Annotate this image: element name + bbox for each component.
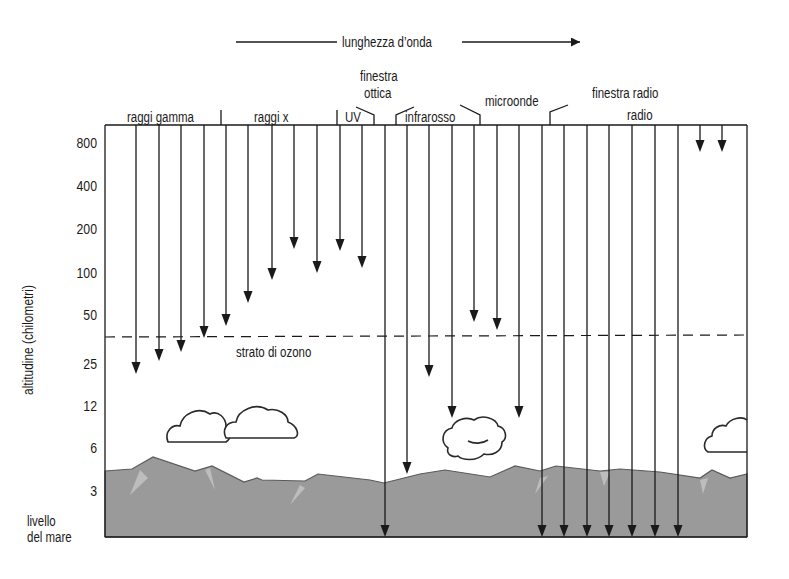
band-label-gamma: raggi gamma: [127, 110, 194, 124]
band-label-infrared: infrarosso: [405, 110, 455, 124]
arrowhead-icon: [493, 318, 502, 330]
atmospheric-window-diagram: lunghezza d’onda raggi gamma raggi x UV …: [0, 0, 789, 579]
band-label-optical-window-line1: finestra: [360, 69, 398, 83]
y-tick-label: 200: [64, 221, 97, 236]
cloud-left: [167, 411, 231, 442]
arrowhead-icon: [244, 291, 253, 303]
arrowhead-icon: [177, 340, 186, 352]
arrowhead-icon: [515, 406, 524, 418]
arrowhead-icon: [696, 140, 705, 152]
y-tick-label: 6: [64, 440, 97, 455]
y-tick-label: 25: [64, 356, 97, 371]
arrowhead-icon: [313, 261, 322, 273]
band-label-microwave: microonde: [485, 94, 539, 108]
y-tick-label: 400: [64, 178, 97, 193]
y-tick-label: 800: [64, 135, 97, 150]
arrowhead-icon: [132, 362, 141, 374]
arrowhead-icon: [268, 268, 277, 280]
arrowhead-icon: [425, 365, 434, 377]
sea-level-label-line1: livello: [27, 514, 56, 528]
y-tick-label: 100: [64, 265, 97, 280]
y-tick-label: 12: [64, 398, 97, 413]
band-label-xray: raggi x: [254, 110, 288, 124]
band-label-radio-window: finestra radio: [592, 86, 658, 100]
band-label-uv: UV: [345, 110, 361, 124]
arrowhead-icon: [222, 314, 231, 326]
ozone-label: strato di ozono: [236, 345, 311, 359]
arrowhead-icon: [358, 256, 367, 268]
arrowhead-icon: [448, 406, 457, 418]
ozone-line: [105, 335, 747, 337]
band-label-optical-window-line2: ottica: [364, 86, 391, 100]
arrowhead-icon: [155, 349, 164, 361]
arrowhead-icon: [470, 310, 479, 322]
arrowhead-icon: [718, 140, 727, 152]
band-label-radio: radio: [627, 108, 653, 122]
arrowhead-icon: [290, 237, 299, 249]
wavelength-label: lunghezza d’onda: [342, 35, 432, 49]
y-axis-title: altitudine (chilometri): [20, 285, 36, 395]
arrowhead-icon: [336, 239, 345, 251]
y-tick-label: 50: [64, 307, 97, 322]
y-tick-label: 3: [64, 483, 97, 498]
arrowhead-icon: [403, 462, 412, 474]
diagram-artwork: [0, 0, 789, 579]
cloud-center: [443, 417, 505, 459]
cloud-right: [705, 418, 747, 452]
cloud-middle-left: [224, 407, 297, 438]
sea-level-label-line2: del mare: [27, 530, 72, 544]
